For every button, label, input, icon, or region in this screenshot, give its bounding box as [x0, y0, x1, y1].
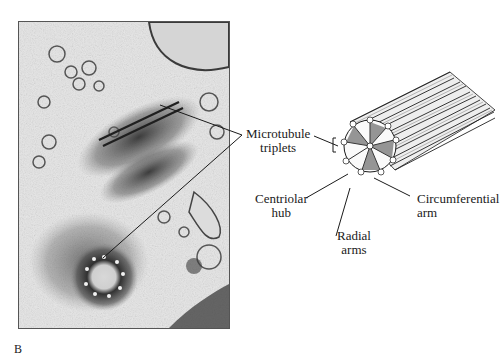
label-radial-arms: Radial arms: [337, 229, 371, 257]
label-centriolar-hub: Centriolar hub: [255, 192, 308, 220]
electron-micrograph: [18, 21, 230, 329]
label-circumferential-arm: Circumferential arm: [417, 192, 499, 220]
micrograph-image: [19, 22, 229, 328]
centriole-diagram: [330, 70, 500, 210]
centriole-cylinder-illustration: [330, 70, 500, 210]
panel-letter: B: [14, 342, 22, 357]
label-microtubule-triplets: Microtubule triplets: [246, 127, 310, 155]
